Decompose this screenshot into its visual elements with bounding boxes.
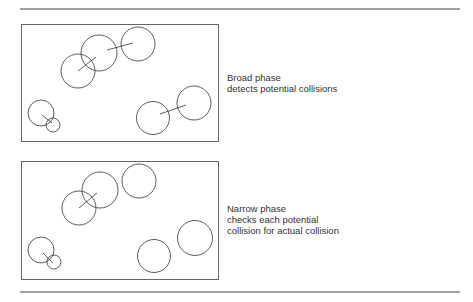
object-circle — [82, 172, 118, 208]
broad-phase-box — [22, 25, 219, 142]
narrow-phase-caption: Narrow phase checks each potential colli… — [227, 203, 339, 237]
object-circle — [81, 35, 117, 71]
collision-pair-link — [160, 105, 186, 114]
object-circle — [138, 240, 171, 273]
object-circle — [47, 255, 61, 269]
collision-pair-link — [107, 43, 133, 50]
broad-phase-shapes — [28, 27, 211, 135]
object-circle — [177, 86, 211, 120]
broad-phase-caption: Broad phase detects potential collisions — [227, 72, 337, 94]
narrow-phase-shapes — [28, 164, 213, 273]
object-circle — [121, 27, 155, 61]
diagram-canvas — [0, 0, 473, 302]
narrow-phase-box — [22, 162, 219, 280]
caption-line: detects potential collisions — [227, 83, 337, 94]
object-circle — [178, 221, 213, 256]
caption-line: collision for actual collision — [227, 225, 339, 236]
object-circle — [137, 102, 170, 135]
object-circle — [122, 164, 156, 198]
object-circle — [28, 237, 54, 263]
caption-line: checks each potential — [227, 214, 339, 225]
caption-line: Broad phase — [227, 72, 337, 83]
object-circle — [28, 100, 54, 126]
caption-line: Narrow phase — [227, 203, 339, 214]
